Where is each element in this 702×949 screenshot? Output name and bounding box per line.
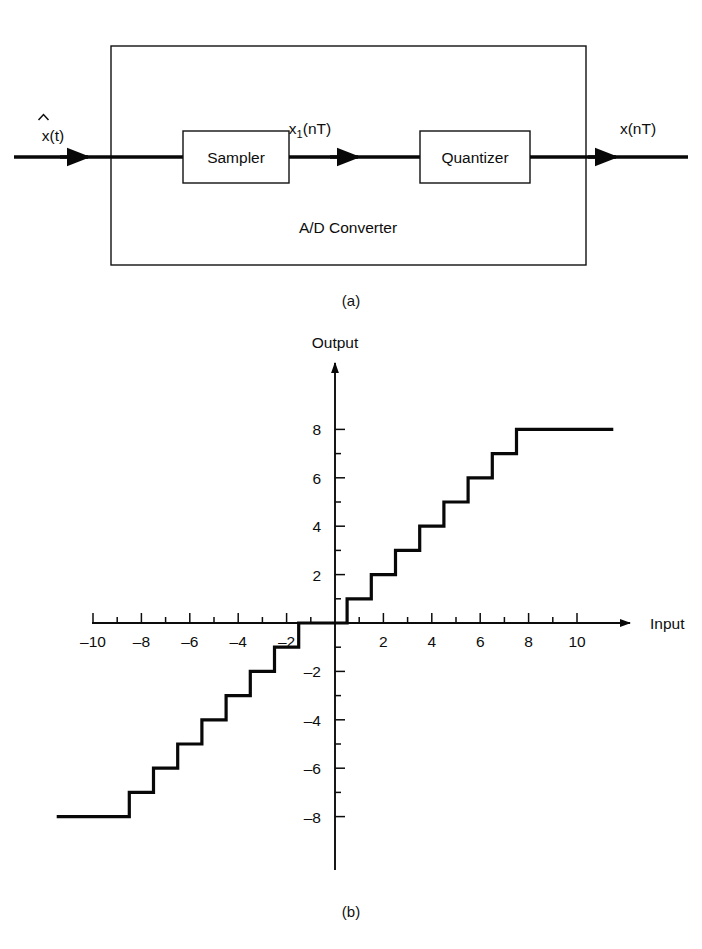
x-axis-title: Input	[650, 615, 685, 632]
panel-b-caption: (b)	[342, 903, 360, 920]
y-axis-title: Output	[312, 334, 359, 351]
hat-accent-icon	[39, 115, 49, 121]
y-tick-label: –2	[304, 663, 321, 680]
figure-root: Sampler Quantizer A/D Converter x(t) x1(…	[0, 0, 702, 949]
quantizer-block-label: Quantizer	[441, 149, 508, 166]
intermediate-signal-suffix: (nT)	[303, 120, 331, 137]
y-tick-label: 6	[312, 470, 321, 487]
svg-text:x1(nT): x1(nT)	[289, 120, 331, 140]
panel-b-chart: Output Input –10–8–6–4–2246810 –8–6–4–22…	[57, 334, 685, 920]
panel-a-caption: (a)	[342, 292, 360, 309]
ad-converter-label: A/D Converter	[299, 219, 397, 236]
x-tick-label: 6	[476, 633, 485, 650]
panel-a-diagram: Sampler Quantizer A/D Converter x(t) x1(…	[14, 46, 688, 309]
x-tick-label: 4	[427, 633, 436, 650]
input-signal-label-group: x(t)	[39, 115, 65, 145]
input-signal-label: x(t)	[42, 127, 64, 144]
y-tick-label: –8	[304, 809, 321, 826]
x-tick-label: –8	[133, 633, 150, 650]
x-tick-label: –10	[80, 633, 106, 650]
output-signal-label: x(nT)	[620, 120, 656, 137]
sampler-block-label: Sampler	[207, 149, 265, 166]
intermediate-signal-label-group: x1(nT)	[289, 120, 331, 140]
x-tick-label: 10	[568, 633, 586, 650]
y-tick-label: 8	[312, 421, 321, 438]
x-tick-label: 8	[524, 633, 533, 650]
x-axis-tick-labels: –10–8–6–4–2246810	[80, 633, 586, 650]
y-tick-label: –6	[304, 760, 321, 777]
x-tick-label: –4	[230, 633, 248, 650]
figure-svg: Sampler Quantizer A/D Converter x(t) x1(…	[0, 0, 702, 949]
x-tick-label: –6	[181, 633, 198, 650]
y-tick-label: 2	[312, 567, 321, 584]
y-tick-label: 4	[312, 518, 321, 535]
y-tick-label: –4	[304, 712, 322, 729]
x-tick-label: 2	[379, 633, 388, 650]
